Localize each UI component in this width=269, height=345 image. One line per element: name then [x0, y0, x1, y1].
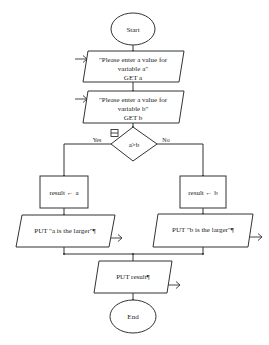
input-b-prompt-line1: "Please enter a value for [99, 96, 168, 104]
assign-b-node[interactable]: result ← b [180, 176, 226, 208]
connector-merge [64, 247, 203, 254]
decision-condition: a>b [129, 141, 140, 149]
assign-a-label: result ← a [49, 189, 79, 197]
output-result-label: PUT result¶ [116, 273, 150, 281]
output-arrow-icon [168, 282, 180, 289]
output-arrow-icon [250, 234, 262, 241]
end-label: End [127, 313, 139, 321]
input-b-node[interactable]: "Please enter a value for variable b" GE… [83, 91, 184, 123]
connector-yes-branch [64, 144, 111, 176]
no-label: No [162, 137, 169, 143]
input-a-get: GET a [124, 74, 143, 82]
input-b-prompt-line2: variable b" [118, 105, 149, 113]
output-b-node[interactable]: PUT "b is the larger"¶ [153, 214, 253, 247]
assign-a-node[interactable]: result ← a [40, 176, 88, 208]
input-arrow-icon [75, 56, 87, 63]
output-a-label: PUT "a is the larger"¶ [34, 227, 96, 235]
minus-box-icon[interactable] [111, 130, 118, 137]
start-label: Start [126, 26, 139, 34]
start-terminal[interactable]: Start [111, 13, 155, 45]
output-a-node[interactable]: PUT "a is the larger"¶ [16, 215, 115, 247]
assign-b-label: result ← b [188, 189, 218, 197]
input-arrow-icon [75, 96, 87, 103]
output-b-label: PUT "b is the larger"¶ [172, 226, 235, 234]
flowchart-canvas: Start "Please enter a value for variable… [0, 0, 269, 345]
input-a-prompt-line1: "Please enter a value for [99, 56, 168, 64]
yes-label: Yes [93, 137, 102, 143]
connector-no-branch [157, 144, 203, 176]
output-result-node[interactable]: PUT result¶ [94, 261, 172, 293]
output-arrow-icon [111, 235, 122, 242]
input-a-node[interactable]: "Please enter a value for variable a" GE… [83, 51, 184, 82]
end-terminal[interactable]: End [110, 300, 156, 333]
input-a-prompt-line2: variable a" [118, 65, 148, 73]
input-b-get: GET b [124, 114, 143, 122]
